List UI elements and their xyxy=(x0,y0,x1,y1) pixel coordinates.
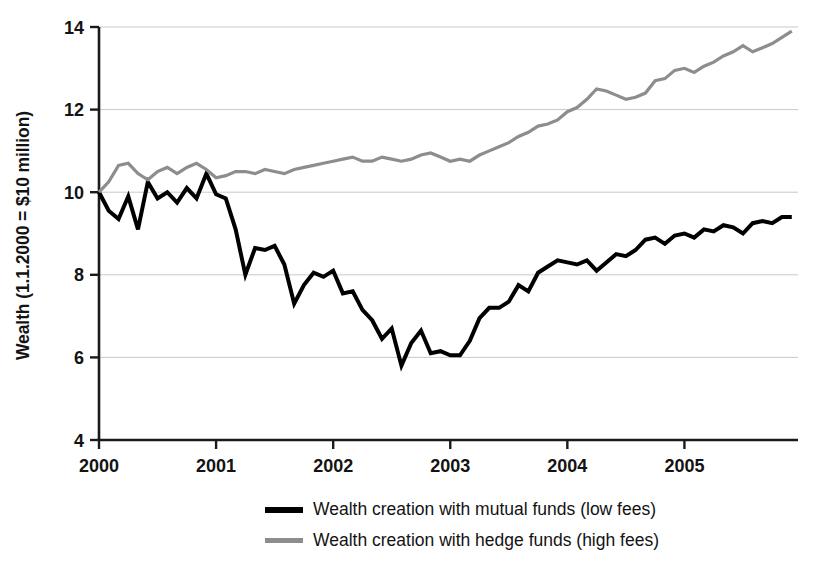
y-tick-label: 14 xyxy=(64,18,84,38)
x-tick-label: 2003 xyxy=(430,456,470,476)
y-tick-label: 12 xyxy=(64,100,84,120)
x-tick-group: 200020012002200320042005 xyxy=(79,440,704,476)
x-tick-label: 2000 xyxy=(79,456,119,476)
y-tick-label: 4 xyxy=(74,431,84,451)
line-chart-svg: 468101214 200020012002200320042005 xyxy=(0,0,821,577)
chart-figure: Wealth (1.1.2000 = $10 million) 46810121… xyxy=(0,0,821,577)
series-line-hedge-funds xyxy=(99,31,792,192)
gray-line-swatch xyxy=(265,538,303,543)
x-tick-label: 2002 xyxy=(313,456,353,476)
legend-item-mutual-funds: Wealth creation with mutual funds (low f… xyxy=(265,499,656,520)
legend-label-hedge-funds: Wealth creation with hedge funds (high f… xyxy=(313,530,659,551)
black-line-swatch xyxy=(265,507,303,513)
y-tick-label: 10 xyxy=(64,183,84,203)
series-group xyxy=(99,31,792,366)
y-tick-label: 6 xyxy=(74,348,84,368)
y-tick-label: 8 xyxy=(74,265,84,285)
x-tick-label: 2005 xyxy=(664,456,704,476)
x-tick-label: 2004 xyxy=(547,456,587,476)
legend-label-mutual-funds: Wealth creation with mutual funds (low f… xyxy=(313,499,656,520)
gridlines-group xyxy=(99,27,798,357)
x-tick-label: 2001 xyxy=(196,456,236,476)
series-line-mutual-funds xyxy=(99,174,792,366)
y-tick-group: 468101214 xyxy=(64,18,99,451)
axes-group xyxy=(99,27,798,440)
legend-item-hedge-funds: Wealth creation with hedge funds (high f… xyxy=(265,530,659,551)
